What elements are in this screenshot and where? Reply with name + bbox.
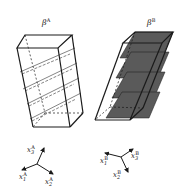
label-x3a: x3A [27, 144, 35, 155]
label-x2b: x2B [113, 169, 121, 180]
axis-x2-b [121, 157, 128, 172]
diagram-canvas: βA βB x3A x1A x2A [0, 0, 188, 192]
label-x2a: x2A [45, 176, 53, 187]
label-beta-b: βB [146, 17, 156, 27]
shaded-planes [106, 32, 173, 118]
label-x1a: x1A [19, 171, 27, 182]
axis-x3-a [37, 148, 44, 164]
label-beta-a: βA [41, 17, 51, 27]
axis-x2-a [37, 164, 53, 174]
label-x3b: x3B [131, 150, 139, 161]
axis-x1-a [22, 164, 37, 170]
prism-b [95, 32, 173, 120]
label-x1b: x1B [100, 155, 108, 166]
prism-a [17, 35, 83, 127]
